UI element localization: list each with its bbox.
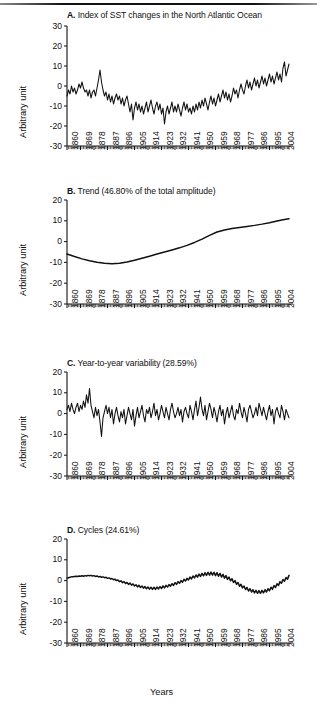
x-tick-label: 2004 xyxy=(286,628,296,647)
x-tick-label: 2004 xyxy=(286,131,296,150)
y-tick-label: -20 xyxy=(40,121,62,131)
x-tick-label: 1959 xyxy=(219,131,229,150)
x-tick-label: 1878 xyxy=(97,461,107,480)
x-tick-label: 1968 xyxy=(232,289,242,308)
x-tick-label: 1941 xyxy=(192,628,202,647)
x-tick-label: 1887 xyxy=(111,628,121,647)
y-tick-label: -10 xyxy=(40,596,62,606)
data-series-line xyxy=(67,572,289,593)
y-axis-label: Arbitrary unit xyxy=(18,416,28,468)
data-series-line xyxy=(67,389,289,437)
panel-title-c: C. Year-to-year variability (28.59%) xyxy=(67,358,197,368)
x-tick-label: 1869 xyxy=(84,289,94,308)
y-tick-label: 0 xyxy=(40,408,62,418)
x-tick-label: 1914 xyxy=(151,289,161,308)
x-tick-label: 1968 xyxy=(232,461,242,480)
panel-letter: D. xyxy=(67,525,75,535)
x-tick-label: 1977 xyxy=(246,131,256,150)
x-tick-label: 1914 xyxy=(151,131,161,150)
x-tick-label: 1977 xyxy=(246,628,256,647)
x-tick-label: 1986 xyxy=(259,289,269,308)
x-tick-label: 1977 xyxy=(246,289,256,308)
y-tick-label: -20 xyxy=(40,450,62,460)
x-tick-label: 1896 xyxy=(124,461,134,480)
y-tick-label: 10 xyxy=(40,387,62,397)
x-tick-label: 1905 xyxy=(138,628,148,647)
y-tick-label: 30 xyxy=(40,21,62,31)
x-tick-label: 1869 xyxy=(84,628,94,647)
x-tick-label: 1968 xyxy=(232,628,242,647)
x-tick-label: 1995 xyxy=(273,628,283,647)
y-axis-label: Arbitrary unit xyxy=(18,583,28,635)
x-tick-label: 1941 xyxy=(192,461,202,480)
x-tick-label: 1923 xyxy=(165,628,175,647)
panel-title-d: D. Cycles (24.61%) xyxy=(67,525,139,535)
y-tick-label: -30 xyxy=(40,141,62,151)
x-tick-label: 1995 xyxy=(273,131,283,150)
x-tick-label: 2004 xyxy=(286,289,296,308)
y-tick-label: 0 xyxy=(40,236,62,246)
y-tick-label: -20 xyxy=(40,278,62,288)
y-tick-label: -30 xyxy=(40,638,62,648)
x-tick-label: 1923 xyxy=(165,131,175,150)
x-tick-label: 1986 xyxy=(259,131,269,150)
y-tick-label: 20 xyxy=(40,41,62,51)
x-tick-label: 1941 xyxy=(192,289,202,308)
x-tick-label: 1950 xyxy=(205,461,215,480)
x-tick-label: 1932 xyxy=(178,289,188,308)
x-tick-label: 1932 xyxy=(178,461,188,480)
x-tick-label: 1914 xyxy=(151,628,161,647)
x-tick-label: 1860 xyxy=(70,131,80,150)
x-tick-label: 1923 xyxy=(165,461,175,480)
x-tick-label: 1923 xyxy=(165,289,175,308)
x-tick-label: 1860 xyxy=(70,628,80,647)
x-tick-label: 1968 xyxy=(232,131,242,150)
y-tick-label: 10 xyxy=(40,554,62,564)
y-tick-label: 0 xyxy=(40,81,62,91)
y-tick-label: 10 xyxy=(40,215,62,225)
x-tick-label: 1878 xyxy=(97,131,107,150)
x-tick-label: 1869 xyxy=(84,461,94,480)
panel-title-text: Cycles (24.61%) xyxy=(78,525,140,535)
x-tick-label: 1950 xyxy=(205,131,215,150)
x-tick-label: 1986 xyxy=(259,628,269,647)
x-tick-label: 1959 xyxy=(219,628,229,647)
x-tick-label: 1905 xyxy=(138,131,148,150)
panel-title-text: Index of SST changes in the North Atlant… xyxy=(78,10,262,20)
panel-title-b: B. Trend (46.80% of the total amplitude) xyxy=(67,186,215,196)
panel-letter: B. xyxy=(67,186,75,196)
x-tick-label: 1941 xyxy=(192,131,202,150)
x-tick-label: 1878 xyxy=(97,628,107,647)
y-tick-label: -20 xyxy=(40,617,62,627)
y-tick-label: 10 xyxy=(40,61,62,71)
y-axis-label: Arbitrary unit xyxy=(18,244,28,296)
panel-title-text: Trend (46.80% of the total amplitude) xyxy=(78,186,216,196)
top-rule xyxy=(0,3,317,5)
y-tick-label: -10 xyxy=(40,101,62,111)
y-tick-label: -30 xyxy=(40,299,62,309)
y-tick-label: -30 xyxy=(40,471,62,481)
x-tick-label: 1905 xyxy=(138,289,148,308)
x-tick-label: 1950 xyxy=(205,289,215,308)
panel-title-text: Year-to-year variability (28.59%) xyxy=(78,358,197,368)
y-tick-label: -10 xyxy=(40,429,62,439)
x-tick-label: 1959 xyxy=(219,461,229,480)
x-tick-label: 1914 xyxy=(151,461,161,480)
x-tick-label: 1995 xyxy=(273,289,283,308)
x-tick-label: 1896 xyxy=(124,131,134,150)
x-tick-label: 1896 xyxy=(124,628,134,647)
x-tick-label: 1887 xyxy=(111,131,121,150)
x-tick-label: 1995 xyxy=(273,461,283,480)
y-tick-label: -10 xyxy=(40,257,62,267)
x-tick-label: 1977 xyxy=(246,461,256,480)
x-tick-label: 1869 xyxy=(84,131,94,150)
x-tick-label: 2004 xyxy=(286,461,296,480)
y-tick-label: 0 xyxy=(40,575,62,585)
x-tick-label: 1887 xyxy=(111,461,121,480)
x-tick-label: 1878 xyxy=(97,289,107,308)
x-tick-label: 1932 xyxy=(178,131,188,150)
x-tick-label: 1887 xyxy=(111,289,121,308)
x-tick-label: 1959 xyxy=(219,289,229,308)
panel-letter: A. xyxy=(67,10,75,20)
x-tick-label: 1986 xyxy=(259,461,269,480)
